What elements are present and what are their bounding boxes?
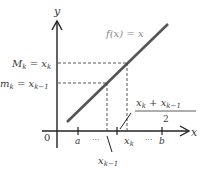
tick-label-b: b: [159, 136, 165, 146]
tick-dots-2: ···: [145, 135, 153, 144]
upper-bound-label: Mk = xk: [11, 58, 51, 71]
midpoint-pointer: [120, 113, 131, 129]
diagram-canvas: y x 0 f(x) = x Mk = xk mk = xk−1 a ··· x…: [0, 0, 200, 174]
lower-bound-label: mk = xk−1: [0, 78, 49, 91]
tick-label-a: a: [75, 136, 80, 146]
origin-label: 0: [44, 132, 50, 143]
x-axis-label: x: [191, 126, 198, 139]
tick-dots-1: ···: [92, 135, 100, 144]
tick-label-xk: xk: [124, 135, 134, 148]
midpoint-denominator: 2: [163, 114, 169, 124]
tick-label-xk-minus-1: xk−1: [98, 155, 118, 168]
y-axis-label: y: [53, 5, 61, 18]
midpoint-numerator: xk + xk−1: [136, 97, 181, 110]
xk-minus-1-pointer: [107, 136, 112, 152]
function-label: f(x) = x: [105, 28, 144, 39]
